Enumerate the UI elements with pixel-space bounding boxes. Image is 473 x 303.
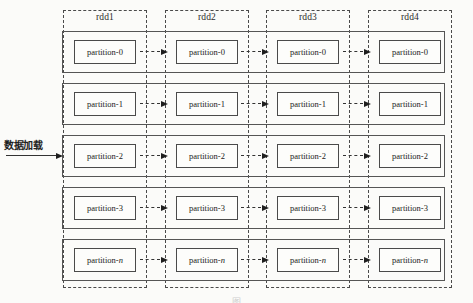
partition-box-rdd4-rowN[interactable]: partition-n	[379, 248, 441, 272]
partition-label: partition-	[87, 203, 119, 213]
data-load-arrow-icon	[6, 151, 63, 160]
partition-label: partition-	[392, 203, 424, 213]
partition-index: 3	[322, 203, 326, 213]
lineage-arrow-icon-row1-a	[140, 99, 168, 108]
data-load-label: 数据加载	[4, 137, 43, 152]
lineage-arrow-icon-row0-b	[241, 47, 269, 56]
partition-index: 1	[322, 99, 326, 109]
lineage-arrow-icon-row1-b	[241, 99, 269, 108]
partition-index: n	[119, 255, 123, 265]
partition-box-rdd1-row0[interactable]: partition-0	[74, 40, 136, 64]
partition-label: partition-	[290, 99, 322, 109]
rdd-label-4: rdd4	[368, 12, 452, 22]
partition-label: partition-	[290, 151, 322, 161]
partition-label: partition-	[189, 47, 221, 57]
partition-index: 0	[424, 47, 428, 57]
partition-label: partition-	[392, 255, 424, 265]
lineage-arrow-icon-row3-a	[140, 203, 168, 212]
partition-box-rdd3-row1[interactable]: partition-1	[277, 92, 339, 116]
partition-box-rdd4-row2[interactable]: partition-2	[379, 144, 441, 168]
partition-box-rdd2-row2[interactable]: partition-2	[176, 144, 238, 168]
partition-box-rdd4-row3[interactable]: partition-3	[379, 196, 441, 220]
partition-index: 3	[424, 203, 428, 213]
lineage-arrow-icon-row0-a	[140, 47, 168, 56]
partition-index: 0	[119, 47, 123, 57]
partition-index: 2	[221, 151, 225, 161]
rdd-label-2: rdd2	[165, 12, 249, 22]
partition-index: 1	[221, 99, 225, 109]
lineage-arrow-icon-rowN-b	[241, 255, 269, 264]
partition-label: partition-	[290, 47, 322, 57]
partition-label: partition-	[87, 99, 119, 109]
partition-label: partition-	[87, 151, 119, 161]
partition-index: 0	[221, 47, 225, 57]
partition-index: n	[424, 255, 428, 265]
partition-box-rdd2-row3[interactable]: partition-3	[176, 196, 238, 220]
partition-index: 1	[119, 99, 123, 109]
partition-index: n	[221, 255, 225, 265]
partition-index: 2	[424, 151, 428, 161]
partition-label: partition-	[392, 47, 424, 57]
partition-box-rdd2-rowN[interactable]: partition-n	[176, 248, 238, 272]
partition-box-rdd4-row0[interactable]: partition-0	[379, 40, 441, 64]
lineage-arrow-icon-rowN-c	[343, 255, 371, 264]
partition-box-rdd1-row3[interactable]: partition-3	[74, 196, 136, 220]
rdd-label-3: rdd3	[266, 12, 350, 22]
lineage-arrow-icon-row2-b	[241, 151, 269, 160]
partition-label: partition-	[189, 203, 221, 213]
partition-label: partition-	[87, 255, 119, 265]
rdd-label-1: rdd1	[63, 12, 147, 22]
lineage-arrow-icon-row3-c	[343, 203, 371, 212]
partition-label: partition-	[290, 203, 322, 213]
partition-box-rdd4-row1[interactable]: partition-1	[379, 92, 441, 116]
lineage-arrow-icon-rowN-a	[140, 255, 168, 264]
partition-label: partition-	[290, 255, 322, 265]
partition-box-rdd2-row1[interactable]: partition-1	[176, 92, 238, 116]
lineage-arrow-icon-row1-c	[343, 99, 371, 108]
partition-index: 1	[424, 99, 428, 109]
figure-caption: 图	[0, 295, 473, 303]
partition-box-rdd1-row2[interactable]: partition-2	[74, 144, 136, 168]
lineage-arrow-icon-row2-a	[140, 151, 168, 160]
partition-box-rdd1-rowN[interactable]: partition-n	[74, 248, 136, 272]
lineage-arrow-icon-row0-c	[343, 47, 371, 56]
partition-index: 3	[221, 203, 225, 213]
partition-label: partition-	[189, 99, 221, 109]
partition-box-rdd1-row1[interactable]: partition-1	[74, 92, 136, 116]
partition-index: 3	[119, 203, 123, 213]
partition-index: n	[322, 255, 326, 265]
partition-box-rdd3-rowN[interactable]: partition-n	[277, 248, 339, 272]
lineage-arrow-icon-row3-b	[241, 203, 269, 212]
partition-label: partition-	[189, 151, 221, 161]
lineage-arrow-icon-row2-c	[343, 151, 371, 160]
partition-label: partition-	[87, 47, 119, 57]
partition-box-rdd2-row0[interactable]: partition-0	[176, 40, 238, 64]
partition-box-rdd3-row2[interactable]: partition-2	[277, 144, 339, 168]
partition-label: partition-	[392, 99, 424, 109]
partition-label: partition-	[189, 255, 221, 265]
partition-index: 0	[322, 47, 326, 57]
partition-index: 2	[322, 151, 326, 161]
partition-box-rdd3-row3[interactable]: partition-3	[277, 196, 339, 220]
partition-label: partition-	[392, 151, 424, 161]
partition-index: 2	[119, 151, 123, 161]
partition-box-rdd3-row0[interactable]: partition-0	[277, 40, 339, 64]
diagram-canvas: rdd1 rdd2 rdd3 rdd4 partition-0 partitio…	[0, 0, 473, 303]
